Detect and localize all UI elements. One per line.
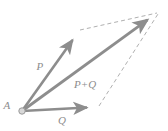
vector-arrow-p <box>22 40 73 111</box>
origin-label-a: A <box>4 100 11 111</box>
vector-label-p: P <box>37 61 44 72</box>
origin-point-marker <box>19 108 25 114</box>
vector-label-resultant: P+Q <box>74 79 96 90</box>
dashed-edge-q-to-corner <box>99 14 158 106</box>
vector-arrow-q <box>22 108 87 111</box>
vector-diagram-canvas <box>0 0 168 131</box>
vector-label-q: Q <box>58 115 66 126</box>
vector-diagram-figure: A P Q P+Q <box>0 0 168 131</box>
